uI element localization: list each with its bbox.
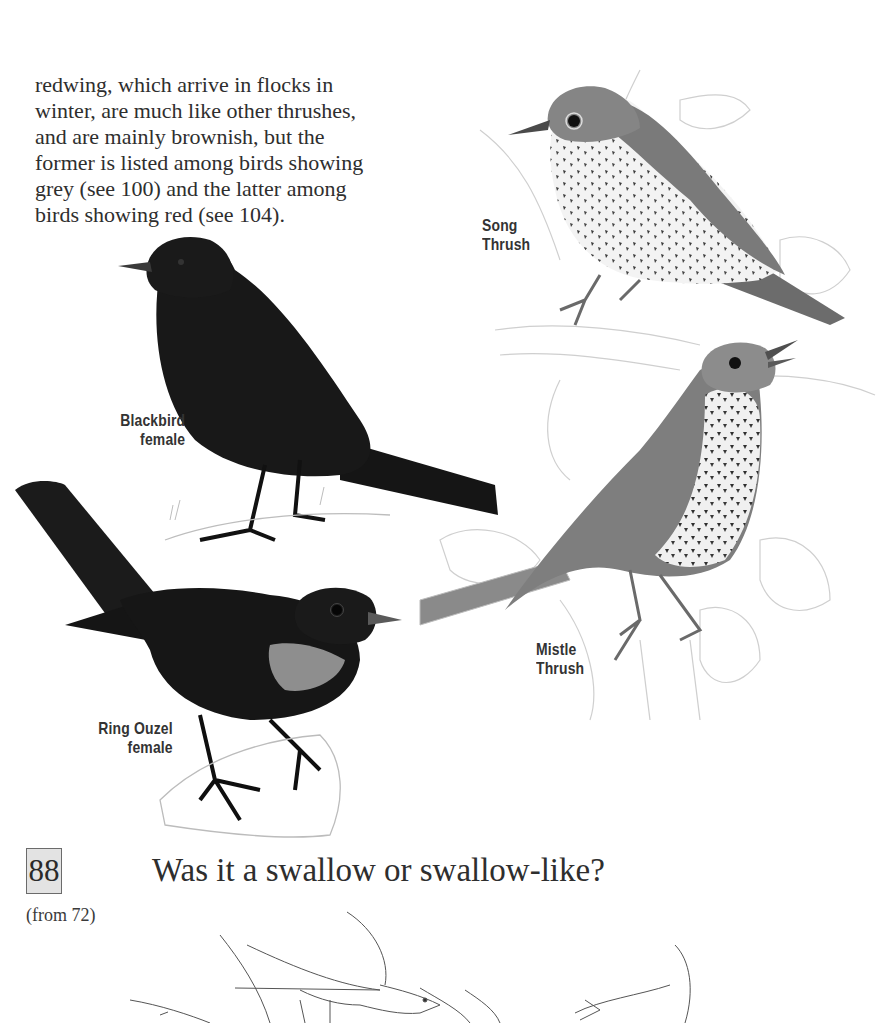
caption-line: Mistle — [536, 640, 584, 659]
caption-line: Song — [482, 216, 530, 235]
caption-line: Thrush — [482, 235, 530, 254]
caption-song-thrush: Song Thrush — [482, 216, 530, 254]
caption-line: Ring Ouzel — [99, 719, 173, 738]
section-number-box: 88 — [26, 848, 62, 894]
caption-line: female — [99, 738, 173, 757]
caption-ring-ouzel-female: Ring Ouzel female — [99, 719, 173, 757]
ring-ouzel-illustration — [15, 481, 402, 837]
caption-blackbird-female: Blackbird female — [120, 411, 185, 449]
swallow-sketches — [130, 912, 690, 1023]
song-thrush-illustration — [508, 86, 845, 325]
caption-line: Blackbird — [120, 411, 185, 430]
caption-line: Thrush — [536, 659, 584, 678]
blackbird-illustration — [118, 237, 498, 540]
from-reference: (from 72) — [26, 905, 95, 926]
caption-mistle-thrush: Mistle Thrush — [536, 640, 584, 678]
book-page: redwing, which arrive in flocks in winte… — [0, 0, 879, 1023]
section-title: Was it a swallow or swallow-like? — [152, 850, 605, 890]
caption-line: female — [120, 430, 185, 449]
